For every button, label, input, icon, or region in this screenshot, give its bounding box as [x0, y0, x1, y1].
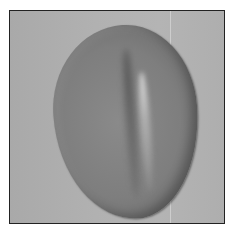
- photo-frame: [9, 10, 225, 224]
- oval-object: [47, 20, 204, 224]
- ridge-highlight: [137, 71, 155, 191]
- ridge-shadow: [121, 48, 141, 198]
